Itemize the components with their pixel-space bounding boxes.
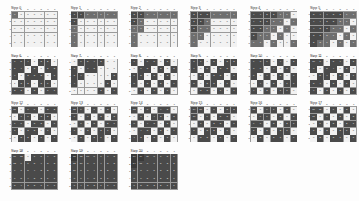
heatmap-cell: 0 xyxy=(12,12,18,19)
heatmap-cell: 0 xyxy=(264,40,270,47)
heatmap-cell: 0 xyxy=(51,114,57,121)
heatmap-cell: 2 xyxy=(171,114,177,121)
heatmap-cell: 3 xyxy=(91,121,97,128)
heatmap-cell: 5 xyxy=(198,73,204,80)
heatmap-cell: 0 xyxy=(51,59,57,66)
plot-area: 1234567123452211111220000011000001000000… xyxy=(131,11,178,47)
heatmap-cell: 0 xyxy=(164,114,170,121)
heatmap-cell: 4 xyxy=(264,73,270,80)
heatmap-cell: 0 xyxy=(164,40,170,47)
heatmap-cell: 0 xyxy=(71,88,77,95)
heatmap-cell: 1 xyxy=(138,26,144,33)
heatmap-cell: 2 xyxy=(330,80,336,87)
heatmap-cell: 1 xyxy=(284,80,290,87)
heatmap-cell: 6 xyxy=(317,121,323,128)
heatmap-cell: 2 xyxy=(211,80,217,87)
heatmap-cell: 0 xyxy=(211,19,217,26)
heatmap-cell: 1 xyxy=(291,135,297,142)
plot-area: 1234567123451509703009703029703021703021… xyxy=(250,106,297,142)
heatmap-cell: 3 xyxy=(330,12,336,19)
heatmap-cell: 2 xyxy=(164,73,170,80)
heatmap-cell: 0 xyxy=(131,66,137,73)
heatmap-cell: 0 xyxy=(78,114,84,121)
heatmap-cell: 0 xyxy=(105,114,111,121)
heatmap-cell: 2 xyxy=(204,12,210,19)
heatmap-cell: 11 xyxy=(144,154,150,161)
heatmap-panel: Step 81234567123457065030065030265030205… xyxy=(124,54,184,102)
heatmap-cell: 0 xyxy=(45,26,51,33)
heatmap-cell: 3 xyxy=(317,26,323,33)
heatmap-cell: 7 xyxy=(25,161,31,168)
heatmap-cell: 0 xyxy=(317,114,323,121)
heatmap-cell: 3 xyxy=(198,12,204,19)
heatmap-cell: 0 xyxy=(171,107,177,114)
heatmap-cell: 0 xyxy=(85,135,91,142)
heatmap-cell: 1 xyxy=(25,66,31,73)
heatmap-cell: 0 xyxy=(271,128,277,135)
heatmap-cell: 3 xyxy=(204,80,210,87)
heatmap-cell: 2 xyxy=(204,135,210,142)
heatmap-cell: 0 xyxy=(12,40,18,47)
heatmap-cell: 1 xyxy=(277,33,283,40)
heatmap-cell: 5 xyxy=(164,154,170,161)
heatmap-cell: 2 xyxy=(271,12,277,19)
heatmap-cell: 10 xyxy=(85,154,91,161)
heatmap-cell: 0 xyxy=(31,40,37,47)
heatmap-cell: 4 xyxy=(310,19,316,26)
heatmap-cell: 0 xyxy=(91,88,97,95)
heatmap-cell: 0 xyxy=(12,26,18,33)
heatmap-cell: 6 xyxy=(211,107,217,114)
heatmap-cell: 1 xyxy=(344,12,350,19)
heatmap-cell: 0 xyxy=(111,59,117,66)
heatmap-cell: 0 xyxy=(257,88,263,95)
heatmap-cell: 0 xyxy=(271,73,277,80)
heatmap-cell: 0 xyxy=(337,66,343,73)
heatmap-cell: 1 xyxy=(131,26,137,33)
heatmap-cell: 0 xyxy=(198,128,204,135)
heatmap-cell: 5 xyxy=(18,59,24,66)
heatmap-cell: 6 xyxy=(310,128,316,135)
heatmap-cell: 3 xyxy=(25,183,31,190)
heatmap-cell: 0 xyxy=(18,128,24,135)
heatmap-cell: 0 xyxy=(144,40,150,47)
heatmap-cell: 0 xyxy=(344,26,350,33)
heatmap-cell: 3 xyxy=(158,114,164,121)
heatmap-cell: 6 xyxy=(85,168,91,175)
heatmap-panel: Step 16123456712345150970300970302970302… xyxy=(243,101,303,149)
heatmap-cell: 1 xyxy=(111,175,117,182)
heatmap-cell: 1 xyxy=(78,12,84,19)
heatmap-cell: 0 xyxy=(211,135,217,142)
heatmap-cell: 2 xyxy=(31,73,37,80)
heatmap-cell: 2 xyxy=(330,26,336,33)
heatmap-cell: 0 xyxy=(18,107,24,114)
heatmap-cell: 0 xyxy=(138,59,144,66)
heatmap-cell: 2 xyxy=(171,161,177,168)
heatmap-cell: 2 xyxy=(51,161,57,168)
heatmap-cell: 10 xyxy=(198,107,204,114)
heatmap-cell: 3 xyxy=(151,175,157,182)
heatmap-cell: 0 xyxy=(98,66,104,73)
heatmap-cell: 1 xyxy=(291,73,297,80)
heatmap-cell: 4 xyxy=(324,73,330,80)
heatmap-cell: 3 xyxy=(31,175,37,182)
heatmap-cell: 6 xyxy=(91,107,97,114)
heatmap-cell: 3 xyxy=(198,88,204,95)
heatmap-cell: 13 xyxy=(78,154,84,161)
heatmap-cell: 0 xyxy=(337,107,343,114)
heatmap-cell: 0 xyxy=(264,80,270,87)
heatmap-cell: 0 xyxy=(217,59,223,66)
heatmap-cell: 0 xyxy=(18,33,24,40)
heatmap-cell: 0 xyxy=(131,88,137,95)
heatmap-cell: 0 xyxy=(164,19,170,26)
heatmap-cell: 0 xyxy=(151,19,157,26)
heatmap-cell: 1 xyxy=(171,12,177,19)
heatmap-cell: 0 xyxy=(284,135,290,142)
heatmap-cell: 0 xyxy=(231,26,237,33)
heatmap-cell: 0 xyxy=(144,114,150,121)
heatmap-cell: 3 xyxy=(25,73,31,80)
heatmap-cell: 0 xyxy=(271,114,277,121)
heatmap-cell: 0 xyxy=(25,26,31,33)
plot-area: 1234567123453321111322000022100001100000… xyxy=(190,11,237,47)
heatmap-cell: 2 xyxy=(337,12,343,19)
heatmap-cell: 7 xyxy=(25,107,31,114)
